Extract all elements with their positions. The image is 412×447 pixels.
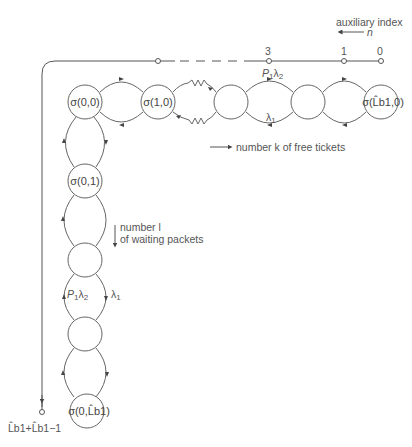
axis-tick-3: 3	[265, 45, 271, 57]
state-diagram: auxiliary index n 3 1 0 L̂b1+L̂b1−1 P1λ2…	[0, 0, 412, 447]
rate-backward-label-vertical: λ1	[111, 288, 121, 302]
state-L-0: σ(L̂b1,0)	[362, 85, 404, 119]
state-0-2	[68, 243, 102, 277]
axis-tick-0: 0	[377, 45, 383, 57]
rate-forward-label: P1λ2	[262, 67, 284, 81]
axis-end-label: L̂b1+L̂b1−1	[8, 421, 61, 434]
state-2-0	[214, 85, 248, 119]
state-0-3	[68, 317, 102, 351]
state-0-1: σ(0,1)	[68, 164, 102, 198]
axis-variable: n	[367, 26, 373, 38]
svg-text:σ(0,L̂b1): σ(0,L̂b1)	[68, 404, 110, 417]
rate-backward-label: λ1	[266, 111, 276, 125]
svg-text:σ(1,0): σ(1,0)	[143, 96, 172, 108]
axis-tick-1: 1	[341, 45, 347, 57]
rate-forward-label-vertical: P1λ2	[67, 288, 89, 302]
state-0-0: σ(0,0)	[68, 85, 102, 119]
waiting-packets-label-2: of waiting packets	[120, 233, 203, 245]
svg-text:σ(0,0): σ(0,0)	[70, 96, 99, 108]
svg-text:σ(0,1): σ(0,1)	[70, 175, 99, 187]
state-0-L: σ(0,L̂b1)	[68, 394, 110, 428]
state-3-0	[291, 85, 325, 119]
state-1-0: σ(1,0)	[141, 85, 175, 119]
free-tickets-label: number k of free tickets	[236, 141, 345, 153]
svg-text:σ(L̂b1,0): σ(L̂b1,0)	[362, 95, 404, 108]
waiting-packets-label-1: number l	[120, 221, 161, 233]
